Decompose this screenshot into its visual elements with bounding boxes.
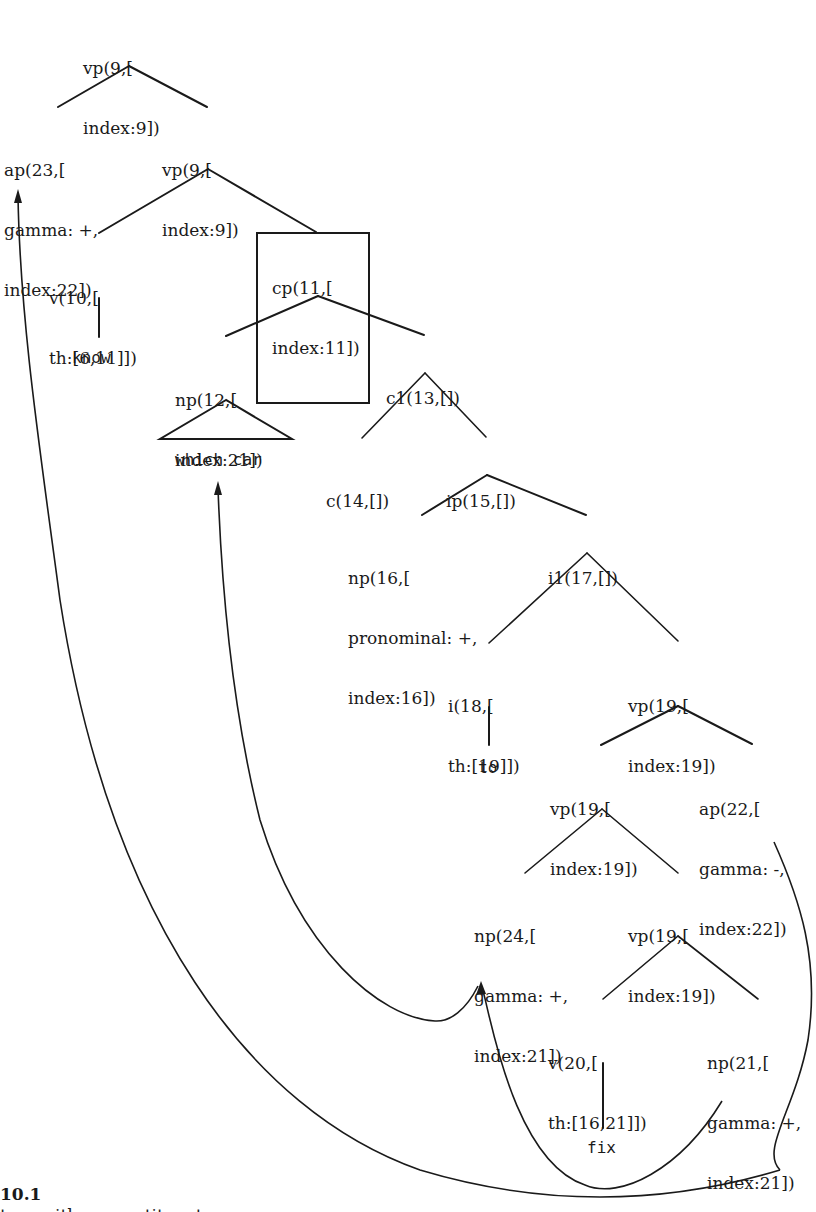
node-i1-17: i1(17,[]) [548, 528, 618, 628]
node-label: np(16,[ [348, 568, 477, 588]
node-v10: v(10,[ th:[6,11]]) [49, 248, 137, 408]
node-cp11-highlighted: cp(11,[ index:11]) [256, 232, 370, 404]
node-label: vp(9,[ [162, 160, 239, 180]
node-label: ap(22,[ [699, 799, 787, 819]
node-label: np(12,[ [175, 390, 263, 410]
node-features: th:[16,21]]) [548, 1113, 647, 1133]
node-i18: i(18,[ th:[19]]) [448, 656, 520, 816]
node-features: gamma: -, [699, 859, 787, 879]
node-label: ip(15,[]) [446, 491, 516, 511]
node-label: v(20,[ [548, 1053, 647, 1073]
node-np21: np(21,[ gamma: +, index:21]) [707, 1013, 801, 1212]
node-label: cp(11,[ [272, 278, 360, 298]
node-label: vp(19,[ [628, 926, 716, 946]
node-label: np(24,[ [474, 926, 568, 946]
node-c1-13: c1(13,[]) [386, 348, 460, 448]
node-label: c(14,[]) [326, 491, 389, 511]
node-features: index:19]) [550, 859, 638, 879]
figure-caption-clipped: tree with ... constituent [0, 1205, 203, 1212]
figure-number: 10.1 [0, 1184, 41, 1204]
node-label: np(21,[ [707, 1053, 801, 1073]
node-label: vp(19,[ [550, 799, 638, 819]
leaf-fix: fix [587, 1138, 616, 1158]
node-label: i1(17,[]) [548, 568, 618, 588]
node-label: ap(23,[ [4, 160, 98, 180]
leaf-to: to [478, 758, 497, 778]
node-label: c1(13,[]) [386, 388, 460, 408]
node-features: index:21]) [707, 1173, 801, 1193]
node-features: gamma: +, [4, 220, 98, 240]
node-features: index:19]) [628, 986, 716, 1006]
node-np12: np(12,[ index:21]) [175, 350, 263, 510]
node-features: index:9]) [162, 220, 239, 240]
node-label: i(18,[ [448, 696, 520, 716]
syntax-tree-figure: vp(9,[ index:9]) ap(23,[ gamma: +, index… [0, 0, 816, 1212]
node-label: v(10,[ [49, 288, 137, 308]
node-features: gamma: +, [474, 986, 568, 1006]
leaf-which-car: which car [175, 450, 262, 470]
leaf-know: know [72, 348, 111, 368]
node-features: pronominal: +, [348, 628, 477, 648]
node-label: vp(19,[ [628, 696, 716, 716]
node-label: vp(9,[ [83, 58, 160, 78]
node-features: gamma: +, [707, 1113, 801, 1133]
node-features: index:11]) [272, 338, 360, 358]
node-vp9-b: vp(9,[ index:9]) [162, 120, 239, 280]
